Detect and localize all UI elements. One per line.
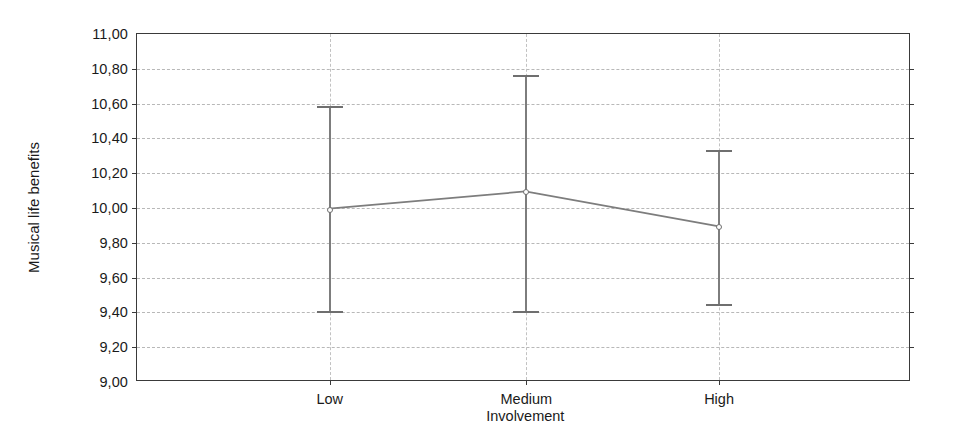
y-tick-label: 9,40 bbox=[99, 304, 128, 320]
gridline-horizontal bbox=[137, 69, 909, 70]
y-tick-mark bbox=[132, 104, 137, 105]
y-tick-label: 11,00 bbox=[92, 26, 128, 42]
x-tick-mark bbox=[526, 380, 527, 385]
x-tick-label: Low bbox=[316, 391, 343, 407]
gridline-horizontal bbox=[137, 243, 909, 244]
series-line bbox=[137, 34, 909, 380]
error-bar-cap-upper bbox=[317, 106, 343, 108]
gridline-horizontal bbox=[137, 278, 909, 279]
y-tick-label: 9,20 bbox=[99, 339, 128, 355]
error-bar-cap-lower bbox=[513, 311, 539, 313]
y-tick-mark bbox=[909, 173, 914, 174]
y-tick-mark bbox=[132, 69, 137, 70]
y-tick-mark bbox=[132, 138, 137, 139]
y-tick-mark bbox=[132, 173, 137, 174]
x-tick-label: High bbox=[704, 391, 734, 407]
y-tick-label: 10,60 bbox=[91, 96, 128, 112]
y-tick-label: 10,40 bbox=[91, 130, 128, 146]
y-tick-mark bbox=[132, 312, 137, 313]
error-bar-cap-upper bbox=[513, 75, 539, 77]
y-tick-mark bbox=[909, 138, 914, 139]
mean-marker bbox=[327, 207, 333, 213]
y-tick-mark bbox=[909, 104, 914, 105]
y-tick-label: 10,80 bbox=[91, 61, 128, 77]
x-axis-title: Involvement bbox=[486, 408, 564, 424]
y-tick-label: 9,00 bbox=[99, 374, 128, 390]
x-tick-label: Medium bbox=[501, 391, 553, 407]
plot-area: 11,0010,8010,6010,4010,2010,009,809,609,… bbox=[136, 33, 910, 381]
y-tick-mark bbox=[909, 312, 914, 313]
y-tick-mark bbox=[909, 208, 914, 209]
y-tick-label: 9,60 bbox=[99, 270, 128, 286]
x-tick-mark bbox=[330, 380, 331, 385]
y-tick-mark bbox=[132, 208, 137, 209]
y-tick-mark bbox=[909, 69, 914, 70]
y-axis-title-text: Musical life benefits bbox=[25, 142, 42, 273]
gridline-horizontal bbox=[137, 173, 909, 174]
mean-marker bbox=[523, 189, 529, 195]
y-tick-mark bbox=[909, 347, 914, 348]
gridline-horizontal bbox=[137, 138, 909, 139]
y-tick-mark bbox=[132, 347, 137, 348]
error-bar-cap-lower bbox=[706, 304, 732, 306]
y-tick-label: 9,80 bbox=[99, 235, 128, 251]
error-bar-cap-lower bbox=[317, 311, 343, 313]
y-axis-title: Musical life benefits bbox=[22, 33, 44, 381]
mean-marker bbox=[716, 224, 722, 230]
y-tick-mark bbox=[132, 243, 137, 244]
y-tick-mark bbox=[909, 278, 914, 279]
gridline-horizontal bbox=[137, 104, 909, 105]
y-tick-label: 10,00 bbox=[91, 200, 128, 216]
gridline-horizontal bbox=[137, 347, 909, 348]
gridline-horizontal bbox=[137, 208, 909, 209]
y-tick-label: 10,20 bbox=[91, 165, 128, 181]
y-tick-mark bbox=[132, 278, 137, 279]
x-tick-mark bbox=[719, 380, 720, 385]
y-tick-mark bbox=[909, 243, 914, 244]
error-bar-chart: Musical life benefits 11,0010,8010,6010,… bbox=[0, 0, 958, 438]
error-bar-cap-upper bbox=[706, 150, 732, 152]
